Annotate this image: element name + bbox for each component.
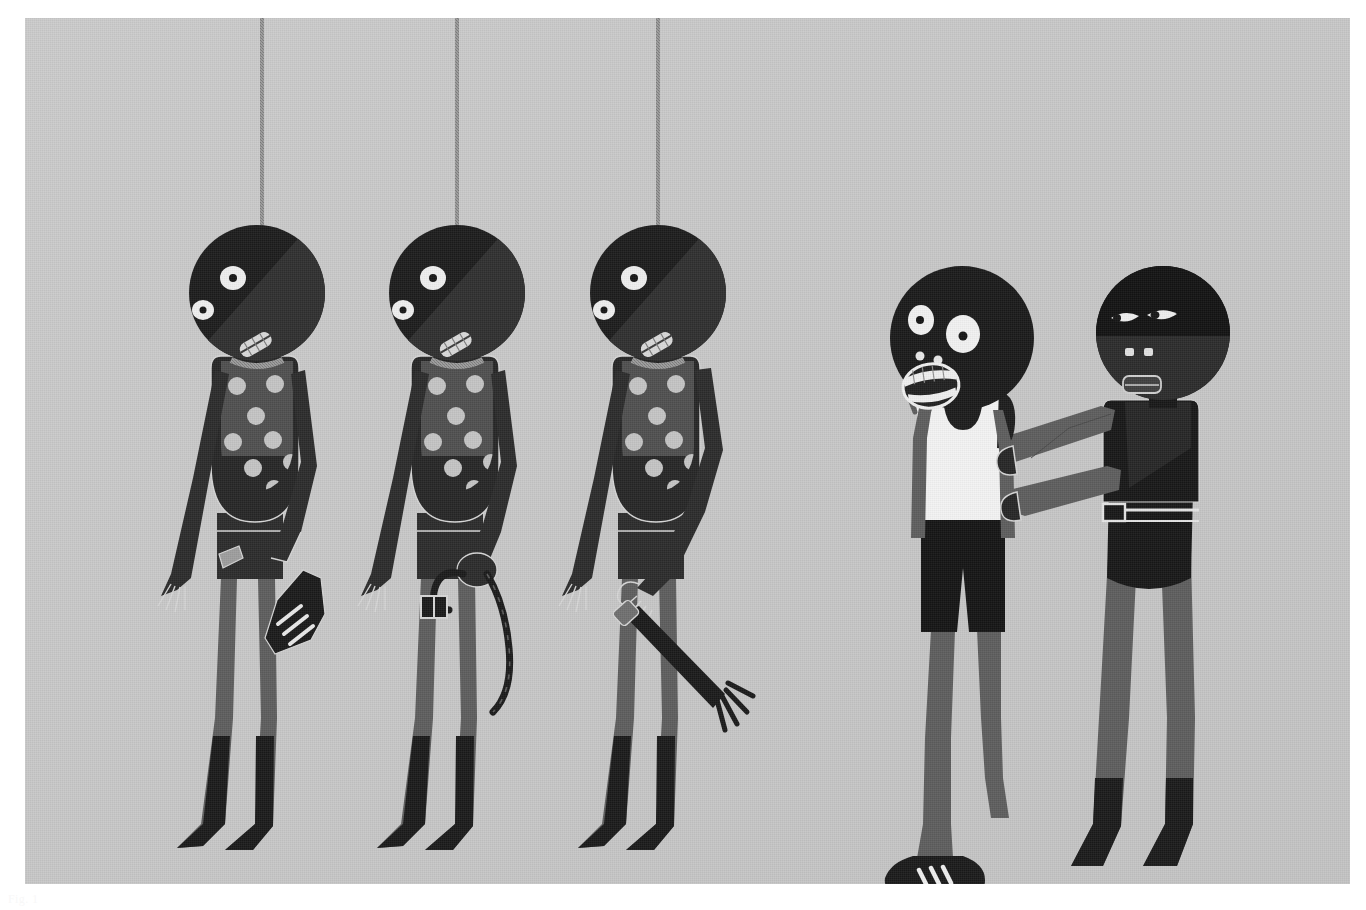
- illustration-scene: [25, 18, 1350, 884]
- rope-1: [260, 18, 264, 230]
- nostril-left: [916, 352, 925, 361]
- shorts: [217, 513, 283, 579]
- eye-right-pupil: [229, 274, 237, 282]
- eye-right-pupil: [630, 274, 638, 282]
- figure-caption: Fig. 1: [8, 893, 428, 908]
- eye-left-pupil: [200, 307, 207, 314]
- rope-3: [656, 18, 660, 230]
- belt-buckle: [1103, 504, 1125, 521]
- eye-right-pupil: [429, 274, 437, 282]
- nostril-right: [1144, 348, 1153, 356]
- page-root: Fig. 1: [0, 0, 1366, 910]
- artwork-canvas: [25, 18, 1350, 884]
- eye-left-pupil: [916, 316, 924, 324]
- eye-left-pupil: [1113, 314, 1121, 322]
- eye-right-pupil: [959, 332, 968, 341]
- rope-2: [455, 18, 459, 230]
- eye-left-pupil: [400, 307, 407, 314]
- mouth: [1123, 376, 1161, 393]
- eye-right-pupil: [1151, 311, 1160, 319]
- nostril-left: [1125, 348, 1134, 356]
- eye-left-pupil: [601, 307, 608, 314]
